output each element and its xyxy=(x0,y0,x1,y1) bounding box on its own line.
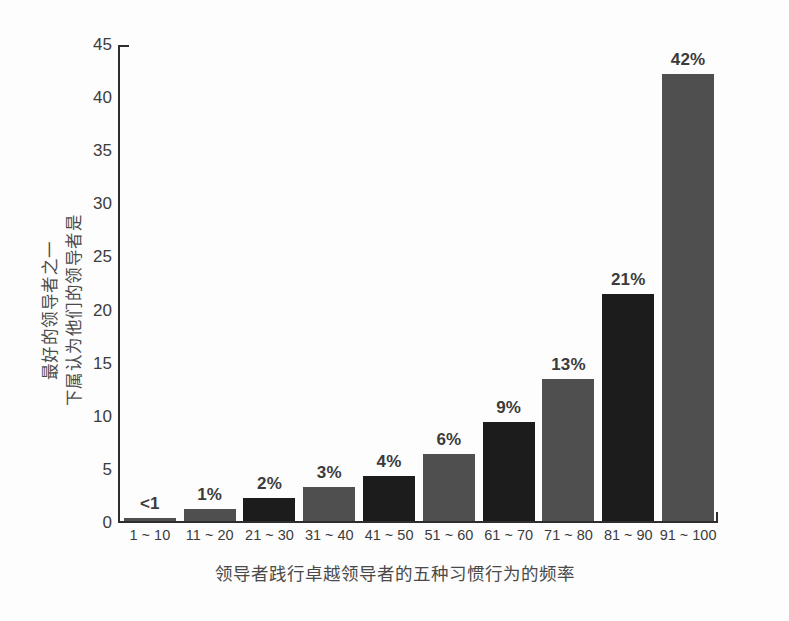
bar-series: <11%2%3%4%6%9%13%21%42% xyxy=(120,45,718,521)
bar xyxy=(602,294,654,521)
bar-slot: 2% xyxy=(240,45,300,521)
y-axis-tick-label: 45 xyxy=(72,35,112,55)
bar-slot: 1% xyxy=(180,45,240,521)
bar xyxy=(423,454,475,521)
bar xyxy=(124,518,176,521)
x-axis-line xyxy=(118,521,718,523)
x-axis-tick-label: 41 ~ 50 xyxy=(359,527,419,543)
y-axis-tick-label: 0 xyxy=(72,513,112,533)
bar-value-label: 6% xyxy=(436,430,461,450)
bar-slot: 3% xyxy=(299,45,359,521)
x-axis-tick-label: 91 ~ 100 xyxy=(658,527,718,543)
y-axis-tick-label: 5 xyxy=(72,460,112,480)
y-axis-tick-label: 35 xyxy=(72,141,112,161)
x-axis-tick-label: 1 ~ 10 xyxy=(120,527,180,543)
bar-slot: 4% xyxy=(359,45,419,521)
bar xyxy=(303,487,355,521)
x-axis-tick-label: 71 ~ 80 xyxy=(539,527,599,543)
bar xyxy=(243,498,295,521)
y-axis-title-line-2: 最好的领导者之一 xyxy=(40,240,61,380)
bar-chart-figure: 下属认为他们的领导者是 最好的领导者之一 051015202530354045 … xyxy=(0,0,789,621)
bar xyxy=(363,476,415,521)
bar-value-label: 21% xyxy=(611,270,646,290)
bar xyxy=(542,379,594,521)
x-axis-tick-label: 21 ~ 30 xyxy=(240,527,300,543)
x-axis-tick-label: 11 ~ 20 xyxy=(180,527,240,543)
plot-area: <11%2%3%4%6%9%13%21%42% xyxy=(118,45,718,523)
y-axis-tick-label: 15 xyxy=(72,354,112,374)
x-axis-title: 领导者践行卓越领导者的五种习惯行为的频率 xyxy=(0,560,789,585)
bar-slot: 42% xyxy=(658,45,718,521)
y-axis-tick-label: 40 xyxy=(72,88,112,108)
bar-slot: 9% xyxy=(479,45,539,521)
bar-value-label: 9% xyxy=(496,398,521,418)
bar xyxy=(662,74,714,521)
y-axis-tick-label: 30 xyxy=(72,194,112,214)
y-axis-tick-label: 20 xyxy=(72,301,112,321)
bar-value-label: 2% xyxy=(257,474,282,494)
bar-value-label: 4% xyxy=(377,452,402,472)
bar-value-label: 1% xyxy=(197,485,222,505)
bar-value-label: 3% xyxy=(317,463,342,483)
bar-value-label: 13% xyxy=(551,355,586,375)
bar xyxy=(184,509,236,521)
bar-slot: 21% xyxy=(598,45,658,521)
bar xyxy=(483,422,535,521)
y-axis-tick-label: 25 xyxy=(72,247,112,267)
y-axis-tick-labels: 051015202530354045 xyxy=(60,0,112,621)
bar-value-label: 42% xyxy=(671,50,706,70)
bar-slot: 13% xyxy=(539,45,599,521)
bar-slot: 6% xyxy=(419,45,479,521)
x-axis-tick-label: 81 ~ 90 xyxy=(598,527,658,543)
y-axis-tick-label: 10 xyxy=(72,407,112,427)
x-axis-tick-label: 31 ~ 40 xyxy=(299,527,359,543)
x-axis-tick-label: 51 ~ 60 xyxy=(419,527,479,543)
bar-slot: <1 xyxy=(120,45,180,521)
x-axis-tick-labels: 1 ~ 1011 ~ 2021 ~ 3031 ~ 4041 ~ 5051 ~ 6… xyxy=(120,527,718,543)
x-axis-tick-label: 61 ~ 70 xyxy=(479,527,539,543)
bar-value-label: <1 xyxy=(140,494,160,514)
